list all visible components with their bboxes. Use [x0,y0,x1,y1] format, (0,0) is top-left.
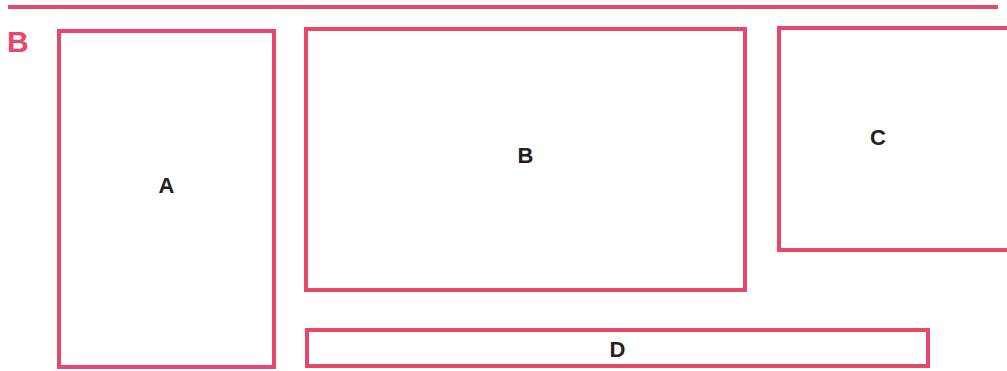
top-divider-line [8,5,998,9]
layout-box-a: A [57,29,276,369]
box-c-label: C [870,125,886,151]
layout-box-c: C [777,26,1007,252]
box-a-label: A [159,173,175,199]
layout-box-d: D [305,328,930,368]
layout-box-b: B [304,27,747,292]
box-b-label: B [518,143,534,169]
box-d-label: D [610,337,626,363]
figure-label: B [7,27,29,57]
